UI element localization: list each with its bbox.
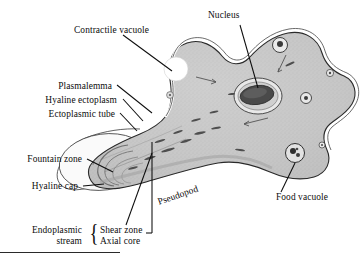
cell-body [89, 28, 359, 188]
label-plasmalemma: Plasmalemma [0, 81, 112, 92]
leader-ectoplasmic-tube [120, 113, 137, 131]
label-endoplasmic-line1: Endoplasmic [0, 225, 82, 236]
label-axial-core: Axial core [100, 236, 140, 247]
endoplasmic-stream-brace: { [90, 220, 99, 245]
footer-rule [0, 252, 120, 253]
label-endoplasmic-line2: stream [0, 236, 82, 247]
amoeba-diagram-figure: Contractile vacuole Nucleus Plasmalemma … [0, 0, 363, 265]
leader-hyaline-ectoplasm [123, 99, 143, 121]
label-hyaline-ectoplasm: Hyaline ectoplasm [0, 95, 117, 106]
label-hyaline-cap: Hyaline cap [0, 181, 78, 192]
contractile-vacuole [164, 57, 188, 81]
food-vacuole [286, 144, 305, 163]
label-ectoplasmic-tube: Ectoplasmic tube [0, 109, 115, 120]
label-contractile-vacuole: Contractile vacuole [74, 25, 149, 36]
leader-plasmalemma [117, 85, 152, 113]
leader-contractile-vacuole [123, 35, 172, 71]
label-fountain-zone: Fountain zone [0, 154, 82, 165]
label-nucleus: Nucleus [208, 10, 239, 21]
label-shear-zone: Shear zone [100, 225, 142, 236]
label-food-vacuole: Food vacuole [276, 192, 328, 203]
nucleus [234, 78, 282, 114]
